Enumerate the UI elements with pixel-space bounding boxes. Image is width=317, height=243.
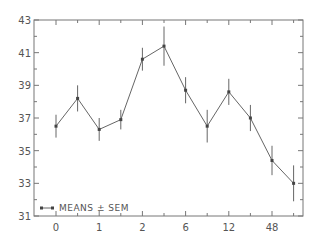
plot-frame — [34, 20, 303, 216]
data-point — [271, 159, 274, 162]
x-tick-label: 2 — [139, 222, 145, 233]
data-point — [119, 118, 122, 121]
line-chart: 3133353739414301261248MEANS ± SEM — [0, 0, 317, 243]
data-point — [141, 58, 144, 61]
y-tick-label: 43 — [18, 15, 31, 26]
legend-marker-icon — [40, 207, 43, 210]
data-point — [163, 45, 166, 48]
y-tick-label: 35 — [18, 146, 31, 157]
data-point — [76, 97, 79, 100]
data-point — [98, 128, 101, 131]
x-tick-label: 0 — [53, 222, 59, 233]
y-tick-label: 41 — [18, 48, 31, 59]
data-point — [184, 89, 187, 92]
data-point — [249, 117, 252, 120]
x-tick-label: 12 — [222, 222, 235, 233]
data-point — [206, 125, 209, 128]
legend-marker-icon — [51, 207, 54, 210]
means-line — [56, 46, 294, 183]
data-point — [227, 90, 230, 93]
data-point — [55, 125, 58, 128]
legend-label: MEANS ± SEM — [59, 203, 129, 213]
x-tick-label: 48 — [266, 222, 279, 233]
x-tick-label: 1 — [96, 222, 102, 233]
x-tick-label: 6 — [182, 222, 188, 233]
y-tick-label: 39 — [18, 80, 31, 91]
y-tick-label: 33 — [18, 178, 31, 189]
y-tick-label: 31 — [18, 211, 31, 222]
y-tick-label: 37 — [18, 113, 31, 124]
data-point — [292, 182, 295, 185]
